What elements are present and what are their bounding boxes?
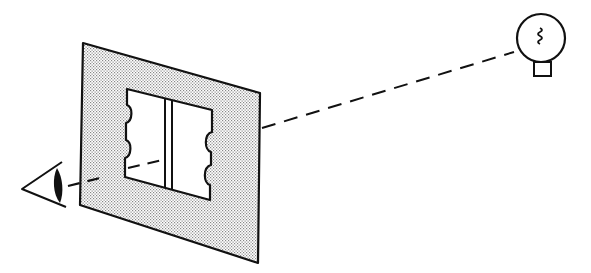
diagram-canvas: Eye viewing a light source through a dou…	[0, 0, 591, 273]
optics-diagram	[0, 0, 591, 273]
light-bulb-icon	[517, 14, 565, 76]
screen-panel	[80, 43, 260, 263]
light-ray	[262, 52, 514, 128]
double-slit	[165, 99, 172, 190]
light-ray-through-aperture	[128, 160, 162, 168]
eye-icon	[22, 162, 66, 207]
